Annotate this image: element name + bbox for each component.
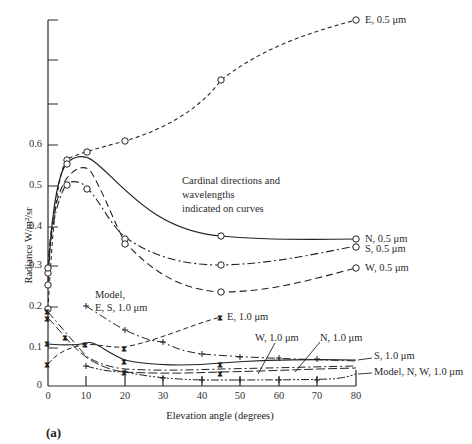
radiance-chart: xxxx xxx xxxxx (0, 0, 472, 444)
label-n-1.0: N, 1.0 μm (320, 332, 362, 343)
svg-text:x: x (45, 339, 49, 348)
annotation-line: wavelengths (182, 188, 280, 202)
x-tick-label: 80 (344, 390, 368, 401)
label-w-1.0: W, 1.0 μm (255, 332, 299, 343)
svg-text:x: x (45, 360, 49, 369)
curve-e-0.5 (48, 20, 356, 309)
svg-text:x: x (218, 360, 222, 369)
svg-text:x: x (45, 307, 49, 316)
y-axis-label: Radiance W/m²/sr (23, 186, 34, 306)
x-axis-label: Elevation angle (degrees) (130, 410, 310, 421)
x-tick-label: 10 (74, 390, 98, 401)
svg-text:x: x (218, 313, 222, 322)
curve-n-1.0 (48, 312, 356, 370)
curve-e-1.0 (48, 317, 221, 364)
label-model-es-2: E, S, 1.0 μm (95, 302, 147, 313)
annotation-line: Cardinal directions and (182, 174, 280, 188)
label-s-0.5: S, 0.5 μm (365, 243, 406, 254)
label-e-1.0: E, 1.0 μm (227, 311, 268, 322)
x-tick-label: 70 (305, 390, 329, 401)
x-tick-label: 60 (267, 390, 291, 401)
y-tick-label: 0 (18, 379, 42, 390)
x-tick-label: 0 (36, 390, 60, 401)
x-tick-label: 30 (151, 390, 175, 401)
svg-text:x: x (83, 340, 87, 349)
x-tick-label: 50 (228, 390, 252, 401)
label-s-1.0: S, 1.0 μm (374, 350, 415, 361)
y-tick-label: 0.1 (18, 341, 42, 352)
svg-text:x: x (122, 344, 126, 353)
panel-label: (a) (46, 425, 61, 441)
label-model-es-1: Model, (95, 289, 125, 300)
label-model-nw-1.0: Model, N, W, 1.0 μm (374, 366, 463, 377)
svg-text:x: x (122, 357, 126, 366)
x-tick-label: 40 (190, 390, 214, 401)
annotation-note: Cardinal directions and wavelengths indi… (182, 174, 280, 216)
svg-text:x: x (218, 369, 222, 378)
svg-text:x: x (63, 333, 67, 342)
x-tick-label: 20 (113, 390, 137, 401)
label-w-0.5: W, 0.5 μm (365, 262, 409, 273)
y-tick-label: 0.6 (18, 138, 42, 149)
annotation-line: indicated on curves (182, 202, 280, 216)
label-e-0.5: E, 0.5 μm (365, 14, 406, 25)
